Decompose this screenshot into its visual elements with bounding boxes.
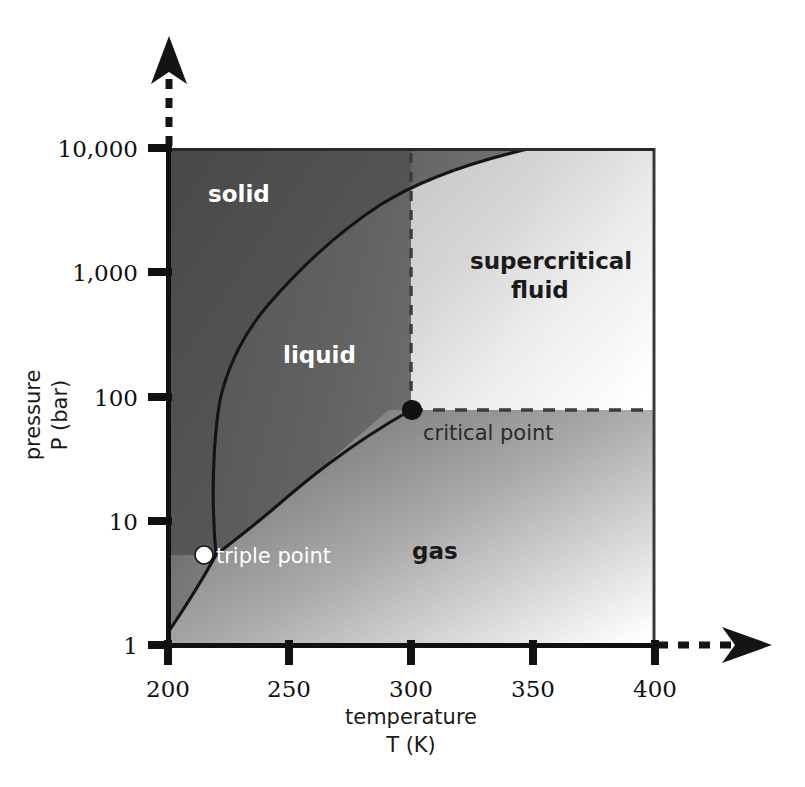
y-tick-label-1000: 1,000 bbox=[72, 260, 138, 286]
phase-diagram-figure: solid liquid supercritical fluid gas tri… bbox=[0, 0, 805, 787]
region-label-supercritical-line2: fluid bbox=[511, 277, 569, 303]
triple-point-label: triple point bbox=[216, 544, 331, 568]
critical-point-label: critical point bbox=[423, 421, 554, 445]
x-axis-title-line1: temperature bbox=[345, 705, 477, 729]
plot-area: solid liquid supercritical fluid gas tri… bbox=[167, 148, 655, 645]
x-tick-label-300: 300 bbox=[389, 676, 433, 702]
y-tick-label-10000: 10,000 bbox=[58, 136, 138, 162]
y-axis-title-line1: pressure bbox=[21, 370, 45, 461]
x-tick-label-350: 350 bbox=[511, 676, 555, 702]
region-label-liquid: liquid bbox=[283, 342, 356, 368]
region-label-supercritical-line1: supercritical bbox=[470, 248, 632, 274]
x-tick-label-200: 200 bbox=[146, 676, 190, 702]
x-axis-title-line2: T (K) bbox=[385, 733, 436, 757]
y-tick-label-10: 10 bbox=[109, 509, 138, 535]
critical-point-marker bbox=[403, 401, 422, 420]
region-label-solid: solid bbox=[208, 181, 270, 207]
y-axis-title-line2: P (bar) bbox=[48, 380, 72, 451]
pressure-axis-arrow bbox=[151, 36, 187, 146]
temperature-axis-arrow bbox=[657, 627, 772, 663]
phase-diagram-svg: solid liquid supercritical fluid gas tri… bbox=[0, 0, 805, 787]
y-tick-label-100: 100 bbox=[94, 385, 138, 411]
x-tick-label-400: 400 bbox=[633, 676, 677, 702]
region-label-gas: gas bbox=[412, 538, 458, 564]
triple-point-marker bbox=[195, 546, 213, 564]
x-tick-label-250: 250 bbox=[267, 676, 311, 702]
y-tick-label-1: 1 bbox=[123, 633, 138, 659]
